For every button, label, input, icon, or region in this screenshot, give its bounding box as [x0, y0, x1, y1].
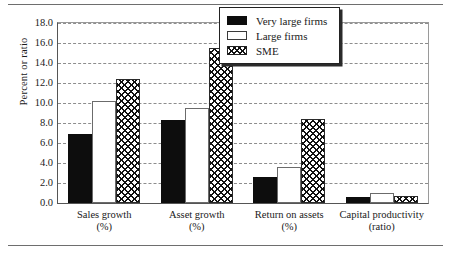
y-axis-tick-label: 6.0	[40, 138, 53, 149]
x-axis-category-label: Sales growth(%)	[58, 209, 151, 234]
bar[interactable]	[301, 119, 325, 203]
category-name: Return on assets	[255, 209, 324, 220]
legend-label: Very large firms	[256, 15, 327, 27]
category-name: Capital productivity	[340, 209, 424, 220]
bar[interactable]	[346, 197, 370, 204]
y-axis-tick-label: 2.0	[40, 178, 53, 189]
legend-item[interactable]: Large firms	[227, 28, 327, 43]
category-unit: (ratio)	[336, 221, 429, 233]
x-axis-category-label: Capital productivity(ratio)	[336, 209, 429, 234]
category-unit: (%)	[151, 221, 244, 233]
figure-top-rule	[8, 4, 443, 5]
bar[interactable]	[209, 48, 233, 203]
legend-swatch-icon	[227, 31, 247, 40]
bar-group: Sales growth(%)	[58, 23, 151, 203]
legend-swatch-icon	[227, 46, 247, 55]
bar[interactable]	[161, 120, 185, 203]
bar[interactable]	[92, 101, 116, 203]
y-axis-tick-label: 0.0	[40, 198, 53, 209]
legend-item[interactable]: Very large firms	[227, 13, 327, 28]
bar[interactable]	[68, 134, 92, 203]
y-axis-tick-label: 4.0	[40, 158, 53, 169]
legend-label: SME	[256, 45, 279, 57]
category-unit: (%)	[58, 221, 151, 233]
y-axis-tick-label: 10.0	[35, 98, 53, 109]
category-name: Asset growth	[169, 209, 225, 220]
legend-swatch-icon	[227, 16, 247, 25]
bar[interactable]	[253, 177, 277, 203]
y-axis-tick-label: 18.0	[35, 18, 53, 29]
y-axis-tick-label: 16.0	[35, 38, 53, 49]
category-unit: (%)	[243, 221, 336, 233]
y-axis-tick-label: 12.0	[35, 78, 53, 89]
bar[interactable]	[185, 108, 209, 203]
bar[interactable]	[370, 193, 394, 203]
y-axis-tick-label: 14.0	[35, 58, 53, 69]
y-axis-title: Percent or ratio	[18, 2, 29, 142]
x-axis-category-label: Return on assets(%)	[243, 209, 336, 234]
bar[interactable]	[394, 196, 418, 204]
x-axis-category-label: Asset growth(%)	[151, 209, 244, 234]
bar-group: Capital productivity(ratio)	[336, 23, 429, 203]
legend-item[interactable]: SME	[227, 43, 327, 58]
legend-label: Large firms	[256, 30, 307, 42]
bar[interactable]	[277, 167, 301, 203]
y-axis-tick-label: 8.0	[40, 118, 53, 129]
category-name: Sales growth	[77, 209, 132, 220]
figure-container: Percent or ratio 0.02.04.06.08.010.012.0…	[0, 0, 451, 259]
chart-legend: Very large firmsLarge firmsSME	[219, 7, 340, 64]
bar[interactable]	[116, 79, 140, 203]
figure-bottom-rule	[8, 245, 443, 246]
